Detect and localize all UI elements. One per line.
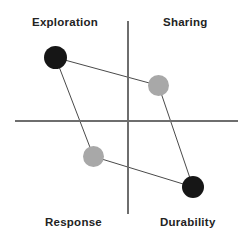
connector-layer: [56, 58, 194, 188]
data-point-durability[interactable]: [182, 176, 204, 198]
data-point-response[interactable]: [83, 146, 104, 167]
connector-exploration-to-sharing: [56, 58, 159, 86]
quadrant-label-response: Response: [45, 216, 102, 229]
quadrant-diagram: Exploration Sharing Response Durability: [0, 0, 249, 241]
connector-response-to-exploration: [56, 58, 94, 157]
data-point-exploration[interactable]: [44, 46, 67, 69]
quadrant-label-exploration: Exploration: [32, 16, 98, 29]
connector-sharing-to-durability: [159, 86, 194, 188]
quadrant-label-sharing: Sharing: [163, 16, 208, 29]
point-layer: [44, 46, 204, 198]
connector-durability-to-response: [94, 157, 194, 188]
data-point-sharing[interactable]: [148, 75, 169, 96]
diagram-canvas: [0, 0, 249, 241]
quadrant-label-durability: Durability: [160, 216, 216, 229]
